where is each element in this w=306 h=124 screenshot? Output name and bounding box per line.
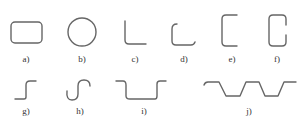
label-i: i): [141, 106, 147, 116]
label-h: h): [76, 106, 84, 116]
label-b: b): [78, 54, 86, 64]
label-j: j): [246, 106, 252, 116]
profile-diagram: [0, 0, 306, 124]
shape-a-rounded-rect: [11, 22, 42, 43]
shape-c-l-bend: [125, 21, 146, 44]
shape-j-corrugation: [204, 82, 296, 96]
shape-h-s-curve: [67, 80, 90, 100]
label-d: d): [180, 54, 188, 64]
shape-d-hook: [172, 24, 195, 45]
label-f: f): [274, 54, 280, 64]
shape-g-z-step: [15, 81, 36, 99]
label-c: c): [132, 54, 139, 64]
label-g: g): [22, 106, 30, 116]
shape-e-bracket: [222, 15, 237, 46]
shape-b-circle: [68, 18, 96, 46]
label-a: a): [23, 54, 30, 64]
shape-f-c-channel: [269, 15, 286, 46]
shape-i-step: [116, 81, 166, 99]
label-e: e): [229, 54, 236, 64]
